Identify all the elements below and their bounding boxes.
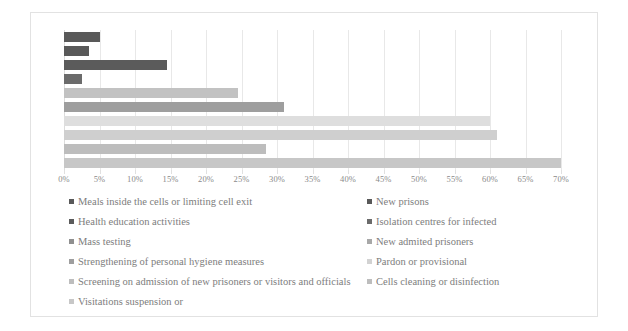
legend-label: New admited prisoners <box>376 236 473 248</box>
legend-swatch-icon <box>367 279 372 284</box>
bar-slot <box>64 46 561 56</box>
bar[interactable] <box>64 158 561 168</box>
legend-item[interactable]: Pardon or provisional <box>367 256 467 268</box>
bar-slot <box>64 130 561 140</box>
legend-item[interactable]: Screening on admission of new prisoners … <box>69 276 350 288</box>
legend-row: Strengthening of personal hygiene measur… <box>37 256 593 277</box>
legend-label: Isolation centres for infected <box>376 216 496 228</box>
legend-swatch-icon <box>367 239 372 244</box>
plot-area <box>64 30 561 170</box>
bar-slot <box>64 60 561 70</box>
bar-slot <box>64 74 561 84</box>
x-tick-label: 50% <box>411 174 427 184</box>
legend-item[interactable]: Visitations suspension or <box>69 296 183 308</box>
x-tick-label: 25% <box>234 174 250 184</box>
bar-series <box>64 30 561 170</box>
bar[interactable] <box>64 144 266 154</box>
legend-label: Health education activities <box>78 216 190 228</box>
x-tick-label: 60% <box>482 174 498 184</box>
legend-swatch-icon <box>69 239 74 244</box>
x-tick-label: 5% <box>94 174 106 184</box>
legend-item[interactable]: Mass testing <box>69 236 131 248</box>
legend-item[interactable]: Meals inside the cells or limiting cell … <box>69 196 252 208</box>
legend-item[interactable]: Isolation centres for infected <box>367 216 496 228</box>
legend-swatch-icon <box>69 199 74 204</box>
bar-slot <box>64 116 561 126</box>
bar[interactable] <box>64 32 100 42</box>
x-tick-label: 65% <box>518 174 534 184</box>
x-tick-label: 45% <box>376 174 392 184</box>
legend-row: Health education activitiesIsolation cen… <box>37 216 593 237</box>
bar[interactable] <box>64 60 167 70</box>
legend-swatch-icon <box>69 279 74 284</box>
legend-label: Cells cleaning or disinfection <box>376 276 499 288</box>
gridline <box>561 30 562 170</box>
legend-item[interactable]: Strengthening of personal hygiene measur… <box>69 256 264 268</box>
chart-legend: Meals inside the cells or limiting cell … <box>37 196 593 314</box>
bar[interactable] <box>64 88 238 98</box>
legend-row: Visitations suspension or <box>37 296 593 317</box>
x-tick-label: 30% <box>269 174 285 184</box>
legend-swatch-icon <box>69 219 74 224</box>
x-axis: 0%5%10%15%20%25%30%35%40%45%50%55%60%65%… <box>64 170 561 188</box>
legend-item[interactable]: Health education activities <box>69 216 190 228</box>
x-tick-label: 70% <box>553 174 569 184</box>
legend-swatch-icon <box>367 219 372 224</box>
chart-card: 0%5%10%15%20%25%30%35%40%45%50%55%60%65%… <box>30 12 598 317</box>
x-tick-label: 10% <box>127 174 143 184</box>
legend-swatch-icon <box>69 259 74 264</box>
legend-label: New prisons <box>376 196 429 208</box>
legend-swatch-icon <box>367 259 372 264</box>
x-tick-label: 35% <box>305 174 321 184</box>
legend-row: Meals inside the cells or limiting cell … <box>37 196 593 217</box>
bar-slot <box>64 88 561 98</box>
bar-slot <box>64 102 561 112</box>
legend-label: Meals inside the cells or limiting cell … <box>78 196 252 208</box>
bar[interactable] <box>64 116 490 126</box>
legend-item[interactable]: New prisons <box>367 196 429 208</box>
x-tick-label: 55% <box>447 174 463 184</box>
bar-slot <box>64 158 561 168</box>
legend-label: Screening on admission of new prisoners … <box>78 276 350 288</box>
bar[interactable] <box>64 46 89 56</box>
legend-label: Mass testing <box>78 236 131 248</box>
bar[interactable] <box>64 74 82 84</box>
x-tick-label: 15% <box>163 174 179 184</box>
x-tick-label: 20% <box>198 174 214 184</box>
bar-slot <box>64 32 561 42</box>
x-tick-label: 40% <box>340 174 356 184</box>
legend-label: Visitations suspension or <box>78 296 183 308</box>
legend-swatch-icon <box>367 199 372 204</box>
legend-swatch-icon <box>69 299 74 304</box>
legend-item[interactable]: New admited prisoners <box>367 236 473 248</box>
legend-row: Mass testingNew admited prisoners <box>37 236 593 257</box>
legend-label: Pardon or provisional <box>376 256 467 268</box>
x-tick-label: 0% <box>58 174 70 184</box>
legend-row: Screening on admission of new prisoners … <box>37 276 593 297</box>
legend-item[interactable]: Cells cleaning or disinfection <box>367 276 499 288</box>
legend-label: Strengthening of personal hygiene measur… <box>78 256 264 268</box>
bar-slot <box>64 144 561 154</box>
bar[interactable] <box>64 102 284 112</box>
bar[interactable] <box>64 130 497 140</box>
